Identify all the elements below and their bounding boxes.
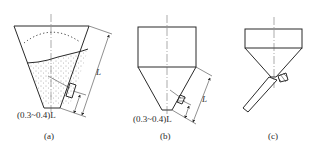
- label-L: L: [201, 94, 207, 104]
- bin-cylinder: [245, 29, 302, 48]
- dimension-fraction: [74, 95, 80, 113]
- panel-b: L (0.3~0.4)L (b): [133, 15, 212, 141]
- extension-line-top: [196, 67, 212, 76]
- caption-a: (a): [44, 131, 54, 141]
- panel-c: (c): [243, 17, 302, 141]
- extension-line-sensor: [73, 91, 86, 95]
- sensor-axis: [170, 90, 181, 98]
- label-L: L: [95, 67, 101, 77]
- label-fraction: (0.3~0.4)L: [17, 110, 56, 120]
- level-sensor: [177, 95, 185, 104]
- extension-line-bottom: [60, 108, 86, 117]
- dimension-fraction: [185, 106, 189, 118]
- extension-line-bottom: [172, 110, 196, 124]
- label-fraction: (0.3~0.4)L: [133, 114, 172, 124]
- extension-line-top: [89, 26, 112, 34]
- bin-cone: [245, 48, 302, 77]
- caption-b: (b): [160, 131, 171, 141]
- discharge-chute: [243, 77, 277, 112]
- angle-of-repose-arc: [24, 32, 80, 43]
- caption-c: (c): [268, 131, 278, 141]
- panel-a: L (0.3~0.4)L (a): [14, 14, 112, 141]
- extension-line-sensor: [183, 101, 191, 105]
- level-sensor: [278, 73, 288, 82]
- bulk-material: [28, 50, 88, 105]
- hopper-sensor-diagram: L (0.3~0.4)L (a) L (0.3~0.4)L (b): [0, 0, 315, 160]
